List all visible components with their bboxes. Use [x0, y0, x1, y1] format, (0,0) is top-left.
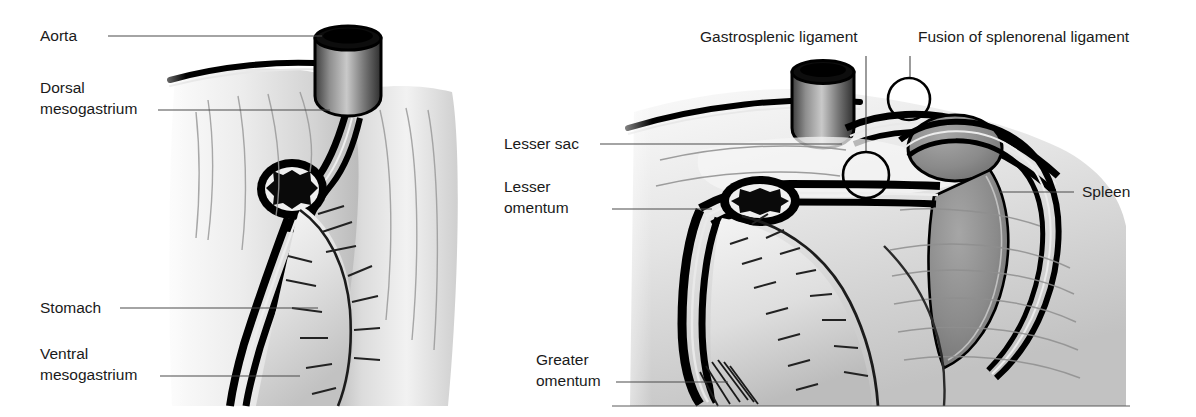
label-stomach-text: Stomach — [40, 299, 101, 316]
right-edge-fade — [600, 90, 652, 410]
aorta-lumen-inner — [323, 29, 373, 44]
stomach-cross-section — [257, 159, 327, 219]
label-aorta-text: Aorta — [40, 27, 77, 44]
aorta-tube-right — [792, 61, 854, 149]
anatomical-figure: Aorta Dorsal mesogastrium Stomach Ventra… — [0, 0, 1196, 417]
stomach-lumen-rugae — [266, 170, 318, 209]
aorta-tube — [315, 26, 381, 116]
left-edge-fade — [140, 60, 186, 410]
label-fusion-of-splenorenal-ligament-text: Fusion of splenorenal ligament — [918, 28, 1130, 45]
label-spleen-text: Spleen — [1082, 183, 1130, 200]
label-gastrosplenic-ligament-text: Gastrosplenic ligament — [700, 28, 858, 45]
figure-canvas: Aorta Dorsal mesogastrium Stomach Ventra… — [0, 0, 1196, 417]
aorta-lumen-right-inner — [800, 63, 846, 77]
label-lesser-sac-text: Lesser sac — [504, 135, 579, 152]
